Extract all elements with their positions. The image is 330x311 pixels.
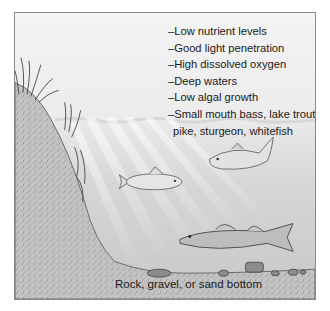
feature-fish-species: –Small mouth bass, lake trout, (168, 106, 316, 123)
feature-oxygen: –High dissolved oxygen (168, 56, 316, 73)
bottom-label: Rock, gravel, or sand bottom (115, 278, 262, 290)
lake-features-list: –Low nutrient levels –Good light penetra… (168, 23, 316, 139)
feature-fish-species-cont: pike, sturgeon, whitefish (168, 123, 316, 140)
feature-depth: –Deep waters (168, 73, 316, 90)
feature-algae: –Low algal growth (168, 89, 316, 106)
feature-nutrients: –Low nutrient levels (168, 23, 316, 40)
lake-trout-fish (209, 137, 273, 169)
diagram-frame: –Low nutrient levels –Good light penetra… (14, 12, 316, 300)
feature-light: –Good light penetration (168, 40, 316, 57)
